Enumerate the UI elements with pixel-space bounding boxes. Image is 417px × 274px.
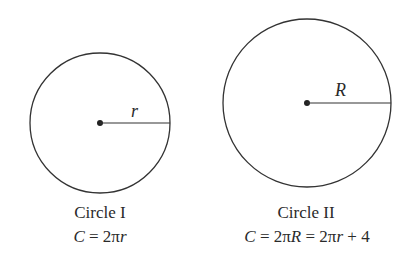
circle-two-formula: C = 2πR = 2πr + 4 xyxy=(244,227,370,246)
circle-one-title: Circle I xyxy=(74,203,126,222)
circle-two-title: Circle II xyxy=(277,203,334,222)
circle-two-radius-label: R xyxy=(334,80,346,100)
circle-one-radius-label: r xyxy=(131,101,139,121)
circle-two: R Circle II C = 2πR = 2πr + 4 xyxy=(223,19,391,246)
circle-one: r Circle I C = 2πr xyxy=(30,53,170,246)
two-circles-diagram: r Circle I C = 2πr R Circle II C = 2πR =… xyxy=(0,0,417,274)
circle-one-formula: C = 2πr xyxy=(73,227,127,246)
